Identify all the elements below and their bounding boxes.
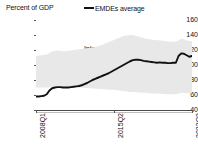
chart-container: Percent of GDP Interquartile range EMDEs…: [0, 0, 198, 147]
emdes-average-line: [36, 20, 192, 110]
x-axis-tick-label: 2015Q2: [117, 113, 124, 138]
x-axis-tick-mark: [114, 110, 115, 113]
chart-legend: Interquartile range EMDEs average: [84, 3, 145, 13]
x-axis-tick-label: 2022Q3: [195, 113, 198, 138]
y-axis-title: Percent of GDP: [6, 4, 54, 11]
plot-area: [36, 20, 192, 110]
x-axis-tick-mark: [36, 110, 37, 113]
x-axis-tick-mark: [192, 110, 193, 113]
x-axis-tick-label: 2008Q1: [39, 113, 46, 138]
